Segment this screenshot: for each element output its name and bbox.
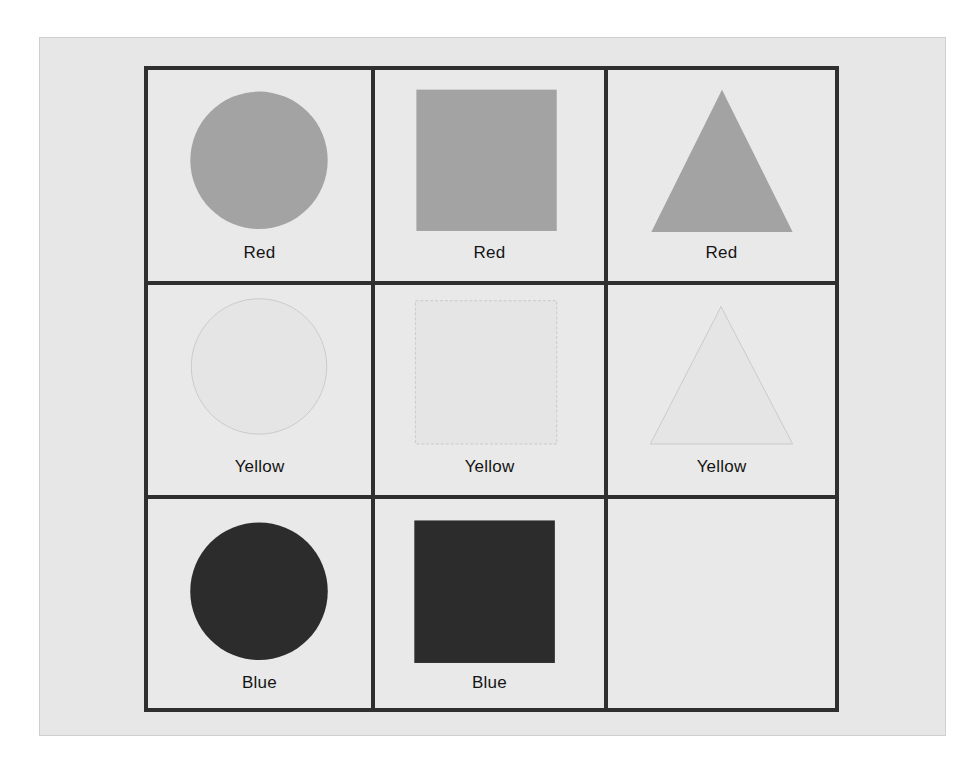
cell-label: Yellow <box>608 457 835 477</box>
cell-label: Red <box>148 243 371 263</box>
grid-cell-r1-c0: Yellow <box>148 285 375 499</box>
grid-cell-r2-c0: Blue <box>148 499 375 708</box>
grid-cell-r1-c1: Yellow <box>375 285 608 499</box>
cell-label: Yellow <box>148 457 371 477</box>
grid-cell-r2-c1: Blue <box>375 499 608 708</box>
grid-cell-r0-c1: Red <box>375 70 608 285</box>
cell-label: Blue <box>148 673 371 693</box>
grid-cell-r1-c2: Yellow <box>608 285 835 499</box>
shape-color-grid: Red Red Red Yellow Yellow Yellow <box>144 66 839 712</box>
cell-label: Blue <box>375 673 604 693</box>
grid-cell-r2-c2-empty <box>608 499 835 708</box>
grid-cell-r0-c0: Red <box>148 70 375 285</box>
grid-cell-r0-c2: Red <box>608 70 835 285</box>
cell-label: Yellow <box>375 457 604 477</box>
cell-label: Red <box>608 243 835 263</box>
cell-label: Red <box>375 243 604 263</box>
